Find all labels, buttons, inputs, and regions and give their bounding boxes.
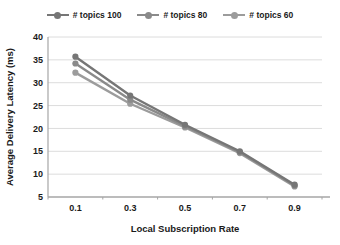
x-tick-label: 0.1 [69, 203, 82, 213]
series-line [75, 57, 294, 185]
y-tick-label: 5 [38, 192, 43, 202]
data-point-marker [72, 60, 78, 66]
y-tick-label: 35 [33, 55, 43, 65]
data-point-marker [72, 54, 78, 60]
x-tick-label: 0.5 [179, 203, 192, 213]
x-tick-label: 0.3 [124, 203, 137, 213]
y-tick-label: 15 [33, 146, 43, 156]
x-tick-label: 0.9 [288, 203, 301, 213]
y-tick-label: 25 [33, 101, 43, 111]
x-tick-label: 0.7 [234, 203, 247, 213]
plot-area: 5101520253035400.10.30.50.70.9 [0, 0, 340, 245]
data-point-marker [72, 70, 78, 76]
x-axis-title: Local Subscription Rate [48, 223, 322, 234]
data-point-marker [127, 92, 133, 98]
data-point-marker [182, 122, 188, 128]
data-point-marker [237, 148, 243, 154]
y-tick-label: 40 [33, 32, 43, 42]
y-tick-label: 10 [33, 169, 43, 179]
y-tick-label: 30 [33, 78, 43, 88]
data-point-marker [292, 182, 298, 188]
y-tick-label: 20 [33, 124, 43, 134]
latency-line-chart: # topics 100 # topics 80 # topics 60 Ave… [0, 0, 340, 245]
